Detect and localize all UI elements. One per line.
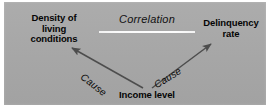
relation-label-cause-right: Cause — [152, 65, 183, 90]
node-label-density-of-living-conditions: Density of living conditions — [16, 13, 92, 45]
node-label-delinquency-rate: Delinquency rate — [194, 18, 268, 39]
relation-label-cause-left: Cause — [79, 71, 109, 98]
diagram-panel: Density of living conditions Delinquency… — [4, 2, 266, 105]
relation-label-correlation: Correlation — [100, 13, 194, 25]
node-label-income-level: Income level — [99, 90, 195, 101]
correlation-connector-line — [99, 31, 195, 33]
diagram-figure: Density of living conditions Delinquency… — [0, 0, 269, 111]
